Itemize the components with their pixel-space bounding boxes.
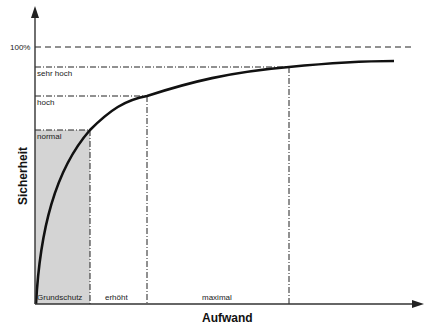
x-axis-title: Aufwand xyxy=(202,311,253,325)
y-axis-title: Sicherheit xyxy=(16,147,30,205)
y-axis-arrow-icon xyxy=(31,6,39,18)
label-sehr-hoch: sehr hoch xyxy=(37,69,72,78)
label-hoch: hoch xyxy=(37,98,54,107)
grundschutz-shaded-region xyxy=(35,130,90,304)
x-axis-arrow-icon xyxy=(412,300,424,308)
label-erhoht: erhöht xyxy=(105,293,128,302)
label-normal: normal xyxy=(37,132,62,141)
label-grundschutz: Grundschutz xyxy=(37,293,82,302)
label-maximal: maximal xyxy=(202,293,232,302)
security-effort-diagram: 100% sehr hoch hoch normal Grundschutz e… xyxy=(0,0,430,329)
label-100-percent: 100% xyxy=(10,43,30,52)
